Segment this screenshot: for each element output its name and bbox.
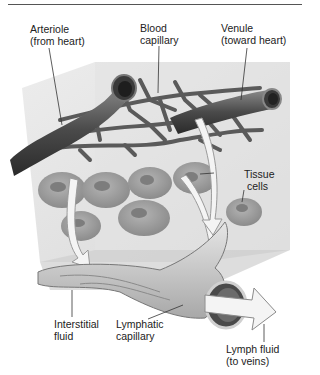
label-arteriole: Arteriole (from heart) [30,23,85,47]
label-tissue-cells-line1: Tissue [244,168,275,180]
label-blood-capillary-line1: Blood [140,22,179,34]
label-arteriole-line2: (from heart) [30,35,85,47]
label-interstitial-fluid: Interstitial fluid [54,318,99,342]
label-lymphatic-capillary: Lymphatic capillary [116,318,163,342]
label-lymph-fluid-line1: Lymph fluid [226,343,279,355]
label-blood-capillary: Blood capillary [140,22,179,46]
label-tissue-cells: Tissue cells [244,168,275,192]
label-tissue-cells-line2: cells [244,180,275,192]
label-interstitial-fluid-line2: fluid [54,330,99,342]
label-venule-line2: (toward heart) [221,34,286,46]
label-lymphatic-capillary-line2: capillary [116,330,163,342]
label-blood-capillary-line2: capillary [140,34,179,46]
label-arteriole-line1: Arteriole [30,23,85,35]
label-interstitial-fluid-line1: Interstitial [54,318,99,330]
label-lymphatic-capillary-line1: Lymphatic [116,318,163,330]
label-venule: Venule (toward heart) [221,22,286,46]
label-venule-line1: Venule [221,22,286,34]
label-lymph-fluid: Lymph fluid (to veins) [226,343,279,367]
label-lymph-fluid-line2: (to veins) [226,355,279,367]
